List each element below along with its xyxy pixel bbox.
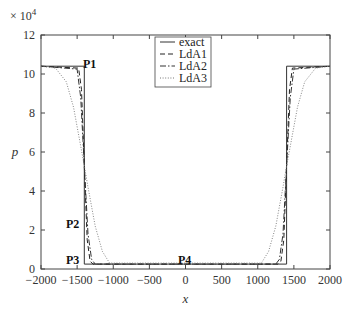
annotation-p2: P2: [66, 217, 79, 231]
x-tick-label: 2000: [318, 273, 342, 287]
plot-series: [41, 66, 330, 264]
annotation-p3: P3: [66, 253, 79, 267]
legend: exactLdA1LdA2LdA3: [155, 35, 211, 87]
x-tick-label: 1000: [246, 273, 270, 287]
point-annotations: P1P2P3P4: [66, 57, 191, 267]
y-multiplier: × 104: [10, 7, 37, 23]
pressure-chart: −2000−1500−1000−500050010001500200002468…: [0, 0, 354, 315]
y-axis-label: p: [11, 144, 19, 159]
x-tick-label: −1500: [62, 273, 93, 287]
x-tick-label: 0: [183, 273, 189, 287]
x-tick-label: −500: [137, 273, 162, 287]
legend-item: LdA3: [179, 71, 207, 85]
x-tick-label: 1500: [282, 273, 306, 287]
annotation-p4: P4: [178, 253, 191, 267]
x-tick-label: −1000: [98, 273, 129, 287]
x-tick-label: 500: [213, 273, 231, 287]
y-tick-label: 10: [23, 67, 35, 81]
y-tick-label: 6: [29, 145, 35, 159]
y-tick-label: 2: [29, 223, 35, 237]
annotation-p1: P1: [83, 57, 96, 71]
x-axis-label: x: [182, 291, 189, 306]
y-tick-label: 8: [29, 106, 35, 120]
y-tick-label: 4: [29, 184, 35, 198]
y-tick-label: 12: [23, 28, 35, 42]
y-tick-label: 0: [29, 262, 35, 276]
